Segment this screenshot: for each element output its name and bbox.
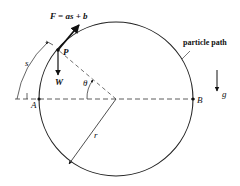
point-p-label: P [63,47,69,57]
force-label: F = as + b [49,11,88,21]
arc-length-dimension [17,42,48,99]
particle-path-diagram: F = as + b P W s θ A B r g particle path [0,0,240,186]
point-b-label: B [197,95,203,105]
gravity-label: g [222,89,227,99]
theta-arc [87,80,93,99]
point-a-dot [37,97,40,100]
force-arrow [58,25,79,50]
point-a-label: A [30,100,37,110]
radius-label: r [94,130,98,140]
theta-label: θ [83,78,88,88]
path-leader-line [182,51,190,59]
radius-line [69,99,116,164]
particle-path-label: particle path [183,38,227,47]
weight-label: W [55,77,64,87]
arc-length-label: s [25,58,29,68]
point-b-dot [191,97,194,100]
